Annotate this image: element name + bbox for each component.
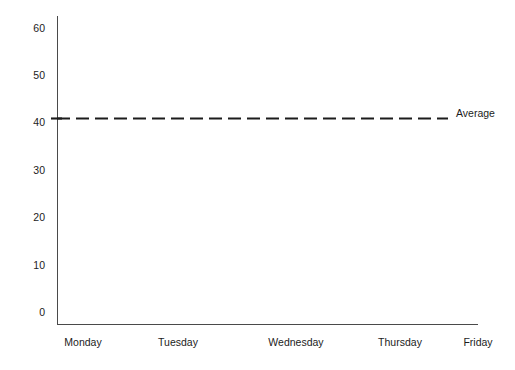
x-tick-label-tuesday: Tuesday — [158, 336, 199, 348]
x-tick-label-friday: Friday — [463, 336, 493, 348]
chart-page: 60 50 40 30 20 10 0 Average Monday Tuesd… — [0, 0, 515, 370]
average-series-label: Average — [456, 107, 495, 119]
x-tick-label-thursday: Thursday — [378, 336, 423, 348]
y-tick-label-20: 20 — [33, 211, 45, 223]
x-tick-label-monday: Monday — [64, 336, 102, 348]
y-tick-label-0: 0 — [39, 306, 45, 318]
y-tick-label-10: 10 — [33, 259, 45, 271]
chart-background — [0, 0, 515, 370]
y-tick-label-30: 30 — [33, 164, 45, 176]
line-chart: 60 50 40 30 20 10 0 Average Monday Tuesd… — [0, 0, 515, 370]
y-tick-label-50: 50 — [33, 69, 45, 81]
y-tick-label-40: 40 — [33, 116, 45, 128]
x-tick-label-wednesday: Wednesday — [268, 336, 324, 348]
y-tick-label-60: 60 — [33, 22, 45, 34]
